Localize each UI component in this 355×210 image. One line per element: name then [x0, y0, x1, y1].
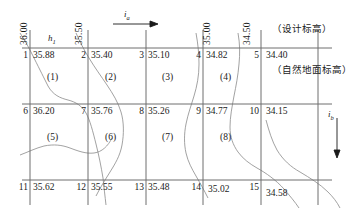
point-elevation-13: 35.48 — [148, 183, 169, 193]
point-elevation-4: 34.82 — [206, 51, 227, 61]
point-elevation-6: 36.20 — [33, 107, 54, 117]
point-number-11: 11 — [11, 183, 28, 193]
point-number-2: 2 — [74, 51, 86, 61]
contour-label-35-50: 35.50 — [75, 22, 85, 45]
slope-a-subscript: a — [127, 14, 130, 21]
point-number-10: 10 — [242, 107, 259, 117]
square-label-5: (5) — [47, 133, 58, 143]
h1-subscript: 1 — [53, 38, 56, 45]
grid-elevation-diagram: 36.00 35.50 35.00 34.50 ia ib h1 （设计标高） … — [0, 0, 355, 210]
point-elevation-11: 35.62 — [33, 183, 54, 193]
point-number-5: 5 — [247, 51, 259, 61]
point-elevation-14: 35.02 — [208, 185, 229, 195]
point-number-12: 12 — [69, 183, 86, 193]
square-label-4: (4) — [220, 73, 231, 83]
contour-label-34-50: 34.50 — [243, 22, 253, 45]
square-label-3: (3) — [162, 73, 173, 83]
square-label-2: (2) — [105, 73, 116, 83]
slope-b-subscript: b — [331, 114, 334, 121]
point-number-15: 15 — [242, 183, 259, 193]
point-number-3: 3 — [132, 51, 144, 61]
contour-label-36-00: 36.00 — [20, 22, 30, 45]
point-number-6: 6 — [16, 107, 28, 117]
point-elevation-12: 35.55 — [91, 183, 112, 193]
slope-a-label: ia — [124, 10, 130, 21]
slope-b-arrow-head — [334, 150, 340, 158]
point-number-14: 14 — [184, 183, 201, 193]
point-elevation-15: 34.58 — [266, 189, 287, 199]
point-elevation-8: 35.26 — [148, 107, 169, 117]
point-elevation-10: 34.15 — [266, 107, 287, 117]
point-number-1: 1 — [16, 51, 28, 61]
design-elevation-note: （设计标高） — [272, 24, 332, 34]
point-number-4: 4 — [189, 51, 201, 61]
point-number-9: 9 — [189, 107, 201, 117]
point-elevation-1: 35.88 — [33, 51, 54, 61]
square-label-7: (7) — [162, 133, 173, 143]
h1-label: h1 — [48, 34, 56, 45]
point-number-13: 13 — [127, 183, 144, 193]
point-number-8: 8 — [132, 107, 144, 117]
square-label-8: (8) — [220, 133, 231, 143]
point-elevation-3: 35.10 — [148, 51, 169, 61]
point-elevation-7: 35.76 — [91, 107, 112, 117]
point-elevation-2: 35.40 — [91, 51, 112, 61]
slope-a-arrow-head — [150, 21, 158, 27]
point-elevation-9: 34.77 — [206, 107, 227, 117]
point-number-7: 7 — [74, 107, 86, 117]
point-elevation-5: 34.40 — [266, 51, 287, 61]
natural-ground-elevation-note: （自然地面标高） — [272, 65, 352, 75]
contour-label-35-00: 35.00 — [203, 22, 213, 45]
square-label-6: (6) — [105, 133, 116, 143]
slope-b-label: ib — [328, 110, 334, 121]
square-label-1: (1) — [47, 73, 58, 83]
